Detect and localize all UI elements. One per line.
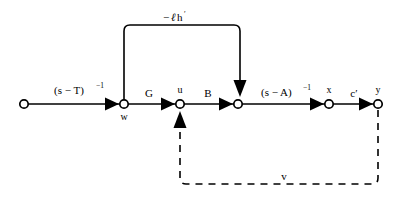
edge-label-feedback-bottom-v: v bbox=[281, 170, 287, 182]
arrowhead-into-x bbox=[310, 98, 324, 111]
diagram-canvas: (s − T) −1 G B (s − A) −1 c′ − ℓ h ′ v w… bbox=[0, 0, 412, 203]
edge-label-resolvent-T-exponent: −1 bbox=[96, 81, 104, 90]
node-mid bbox=[234, 100, 242, 108]
node-x bbox=[325, 100, 333, 108]
signal-flow-diagram: (s − T) −1 G B (s − A) −1 c′ − ℓ h ′ v w… bbox=[0, 0, 412, 203]
arrowhead-into-mid bbox=[219, 98, 233, 111]
node-label-u: u bbox=[178, 84, 183, 95]
edge-label-resolvent-T-base: (s − T) bbox=[54, 84, 84, 97]
edge-label-feedback-script-ell: ℓ bbox=[171, 11, 176, 23]
edge-label-gain-c-prime: c′ bbox=[350, 87, 357, 99]
edge-label-resolvent-A: (s − A) −1 bbox=[261, 83, 311, 99]
node-label-y: y bbox=[376, 84, 381, 95]
edge-label-gain-B: B bbox=[204, 87, 211, 99]
node-w bbox=[120, 100, 128, 108]
node-label-w: w bbox=[120, 111, 128, 122]
edge-label-resolvent-T: (s − T) −1 bbox=[54, 81, 104, 97]
arrowhead-into-y bbox=[359, 98, 373, 111]
edge-label-feedback-h: h bbox=[177, 11, 183, 23]
edge-label-feedback-prime: ′ bbox=[184, 10, 186, 19]
edge-label-resolvent-A-exponent: −1 bbox=[303, 83, 311, 92]
edge-label-resolvent-A-base: (s − A) bbox=[261, 86, 292, 99]
arrowhead-feedback-bottom-into-u bbox=[174, 111, 187, 128]
edge-label-feedback-minus: − bbox=[163, 11, 169, 23]
arrowhead-feedback-top-into-mid bbox=[234, 80, 247, 97]
edge-label-feedback-top: − ℓ h ′ bbox=[163, 10, 186, 23]
edge-label-gain-G: G bbox=[145, 87, 153, 99]
node-y bbox=[374, 100, 382, 108]
arrowhead-into-w bbox=[105, 98, 119, 111]
node-label-x: x bbox=[327, 84, 332, 95]
node-source bbox=[20, 100, 28, 108]
edge-feedback-bottom-path bbox=[180, 110, 378, 184]
node-u bbox=[176, 100, 184, 108]
arrowhead-into-u bbox=[161, 98, 175, 111]
